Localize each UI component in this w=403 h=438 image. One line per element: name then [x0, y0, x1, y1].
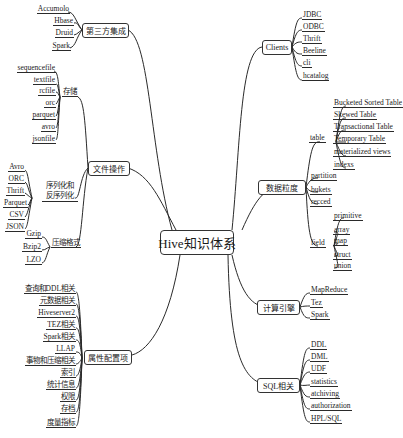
leaf-config-metadata[interactable]: 元数据相关 [39, 296, 76, 306]
branch-config[interactable]: 属性配置项 [84, 350, 132, 365]
leaf-beeline[interactable]: Beeline [302, 46, 327, 56]
leaf-primitive[interactable]: primitive [333, 211, 363, 221]
leaf-config-index[interactable]: 索引 [60, 368, 76, 378]
leaf-orc-serde[interactable]: ORC [8, 174, 25, 184]
branch-sql[interactable]: SQL相关 [257, 378, 300, 393]
leaf-hpl-sql[interactable]: HPL/SQL [310, 414, 342, 424]
sub-field[interactable]: field [310, 238, 326, 248]
leaf-config-auth[interactable]: 权限 [60, 392, 76, 402]
leaf-atchiving[interactable]: atchiving [310, 389, 340, 399]
leaf-hcatalog[interactable]: hcatalog [302, 71, 329, 81]
sub-compression[interactable]: 压缩格式 [51, 238, 81, 248]
leaf-textfile[interactable]: textfile [33, 75, 56, 85]
leaf-odbc[interactable]: ODBC [302, 22, 325, 32]
sub-serde[interactable]: 序列化和 反序列化 [42, 181, 78, 202]
branch-label: 计算引擎 [263, 302, 295, 313]
leaf-temporary-table[interactable]: Temporary Table [333, 134, 386, 144]
leaf-transactional-table[interactable]: Transactional Table [333, 122, 394, 132]
leaf-config-metrics[interactable]: 度量指标 [46, 418, 76, 428]
sub-partition[interactable]: partition [310, 171, 337, 181]
branch-engine[interactable]: 计算引擎 [257, 300, 300, 315]
leaf-statistics[interactable]: statistics [310, 377, 338, 387]
leaf-tez[interactable]: Tez [310, 298, 323, 308]
branch-label: 文件操作 [93, 163, 125, 174]
leaf-config-llap[interactable]: LLAP [55, 344, 76, 354]
branch-clients[interactable]: Clients [262, 40, 292, 55]
leaf-config-archive[interactable]: 存档 [60, 404, 76, 414]
leaf-mapreduce[interactable]: MapReduce [310, 285, 348, 295]
leaf-jdbc[interactable]: JDBC [302, 10, 322, 20]
branch-label: 第三方集成 [86, 25, 126, 36]
leaf-gzip[interactable]: Gzip [25, 229, 42, 239]
sub-storage[interactable]: 存储 [62, 87, 78, 97]
leaf-druid[interactable]: Druid [55, 28, 75, 38]
leaf-cli[interactable]: cli [302, 58, 312, 68]
leaf-sequencefile[interactable]: sequencefile [17, 63, 56, 73]
serde-line2: 反序列化 [42, 191, 78, 201]
leaf-indexs[interactable]: indexs [333, 160, 355, 170]
leaf-avro[interactable]: avro [41, 122, 56, 132]
leaf-config-txn[interactable]: 事物和压缩相关 [25, 356, 76, 366]
leaf-authorization[interactable]: authorization [310, 401, 352, 411]
leaf-json-serde[interactable]: JSON [5, 222, 25, 232]
leaf-materialized-views[interactable]: materialized views [333, 147, 391, 157]
leaf-csv-serde[interactable]: CSV [8, 210, 25, 220]
leaf-spark-engine[interactable]: Spark [310, 310, 330, 320]
branch-label: 属性配置项 [88, 352, 128, 363]
leaf-orc[interactable]: orc [44, 98, 56, 108]
leaf-rcfile[interactable]: rcfile [38, 86, 56, 96]
leaf-map[interactable]: map [333, 236, 348, 246]
leaf-spark[interactable]: Spark [52, 41, 72, 51]
leaf-dml[interactable]: DML [310, 352, 329, 362]
leaf-ddl[interactable]: DDL [310, 340, 327, 350]
leaf-hbase[interactable]: Hbase [53, 16, 74, 26]
leaf-config-ddl[interactable]: 查询和DDL相关 [24, 284, 76, 294]
leaf-skewed-table[interactable]: Skewed Table [333, 110, 377, 120]
leaf-parquet-serde[interactable]: Parquet [3, 198, 28, 208]
leaf-config-tez[interactable]: TEZ相关 [46, 320, 76, 330]
leaf-udf[interactable]: UDF [310, 364, 327, 374]
leaf-jsonfile[interactable]: jsonfile [32, 134, 57, 144]
branch-label: SQL相关 [263, 380, 294, 391]
sub-recced[interactable]: recced [310, 197, 332, 207]
leaf-bucketed-sorted-table[interactable]: Bucketed Sorted Table [333, 98, 403, 108]
branch-third-party[interactable]: 第三方集成 [82, 23, 129, 38]
leaf-config-hs2[interactable]: Hiveserver2 [37, 308, 76, 318]
branch-label: 数据粒度 [266, 182, 298, 193]
leaf-bzip2[interactable]: Bzip2 [22, 242, 42, 252]
serde-line1: 序列化和 [42, 181, 78, 191]
root-node[interactable]: Hive知识体系 [160, 230, 234, 255]
leaf-config-spark[interactable]: Spark相关 [43, 332, 77, 342]
leaf-avro-serde[interactable]: Avro [8, 162, 25, 172]
leaf-parquet[interactable]: parquet [32, 110, 57, 120]
leaf-thrift[interactable]: Thrift [302, 34, 322, 44]
root-label: Hive知识体系 [158, 233, 235, 252]
leaf-array[interactable]: array [333, 225, 350, 235]
leaf-union[interactable]: union [333, 261, 352, 271]
branch-label: Clients [266, 43, 289, 52]
branch-file-ops[interactable]: 文件操作 [88, 161, 130, 176]
leaf-accumolo[interactable]: Accumolo [37, 4, 70, 14]
leaf-struct[interactable]: struct [333, 250, 352, 260]
sub-table[interactable]: table [309, 133, 326, 143]
branch-granularity[interactable]: 数据粒度 [258, 180, 306, 195]
leaf-config-stats[interactable]: 统计信息 [46, 380, 76, 390]
sub-bukets[interactable]: bukets [310, 185, 332, 195]
leaf-lzo[interactable]: LZO [25, 255, 42, 265]
leaf-thrift-serde[interactable]: Thrift [6, 186, 26, 196]
